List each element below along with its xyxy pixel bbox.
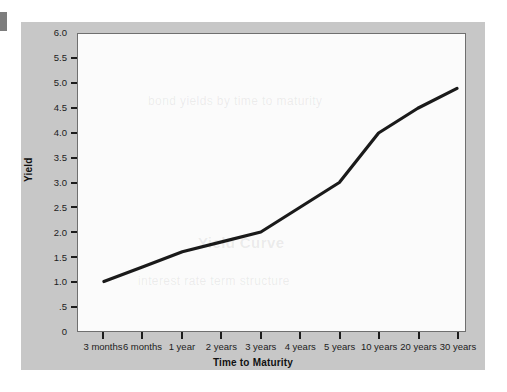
x-axis-tick-mark: [102, 332, 104, 339]
y-axis-tick-label: 4.0: [54, 128, 71, 138]
x-axis-tick-label: 10 years: [361, 342, 397, 352]
yield-curve-line: [78, 34, 465, 331]
y-axis-tick-label: 1.0: [54, 277, 71, 287]
x-axis-tick-label: 30 years: [440, 342, 476, 352]
y-axis-tick-label: 1.5: [54, 253, 71, 263]
x-axis-tick-mark: [141, 332, 143, 339]
x-axis-tick-label: 20 years: [400, 342, 436, 352]
plot-area: bond yields by time to maturity Yield Cu…: [77, 33, 466, 332]
page-edge-marker: [0, 12, 7, 31]
y-axis-tick-label: 2.0: [54, 228, 71, 238]
y-axis-tick-label: 5.0: [54, 78, 71, 88]
y-axis-tick-label: 0: [62, 327, 71, 337]
plot-inner: bond yields by time to maturity Yield Cu…: [78, 34, 465, 331]
y-axis-tick-label: 3.5: [54, 153, 71, 163]
x-axis-tick-mark: [378, 332, 380, 339]
x-axis-tick-mark: [418, 332, 420, 339]
x-axis-tick-mark: [260, 332, 262, 339]
x-axis-tick-label: 1 year: [169, 342, 195, 352]
x-axis-tick-label: 3 months: [83, 342, 122, 352]
x-axis-title: Time to Maturity: [21, 357, 485, 368]
y-axis-title: Yield: [23, 157, 34, 182]
y-axis-tick-label: 4.5: [54, 103, 71, 113]
y-axis-tick-label: 6.0: [54, 28, 71, 38]
y-axis-tick-label: 5.5: [54, 53, 71, 63]
y-axis-tick-label: 3.0: [54, 178, 71, 188]
x-axis-tick-mark: [220, 332, 222, 339]
x-axis-tick-label: 4 years: [285, 342, 316, 352]
x-axis-tick-label: 2 years: [206, 342, 237, 352]
y-axis-tick-label: 2.5: [54, 203, 71, 213]
x-axis-tick-mark: [339, 332, 341, 339]
x-axis-tick-label: 6 months: [123, 342, 162, 352]
chart-figure-panel: 6.05.55.04.54.03.53.02.52.01.51.0.50 Yie…: [21, 22, 485, 370]
x-axis-tick-mark: [457, 332, 459, 339]
x-axis-tick-mark: [299, 332, 301, 339]
y-axis-tick-label: .5: [59, 302, 71, 312]
x-axis-tick-mark: [181, 332, 183, 339]
x-axis-tick-label: 3 years: [245, 342, 276, 352]
x-axis-tick-label: 5 years: [324, 342, 355, 352]
